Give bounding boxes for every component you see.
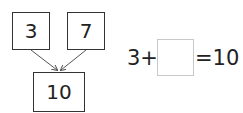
- arrow-left: [31, 50, 57, 70]
- equation-right: =10: [195, 39, 239, 77]
- answer-blank-box[interactable]: [157, 39, 194, 76]
- equation-left: 3+: [127, 39, 158, 77]
- arrow-right: [61, 50, 86, 70]
